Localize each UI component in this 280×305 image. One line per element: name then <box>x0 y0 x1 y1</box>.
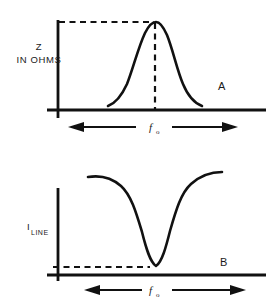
panel-b-x-axis-label: f <box>149 284 154 296</box>
panel-a-y-axis-label-line2: IN OHMS <box>17 54 62 65</box>
panel-a-y-axis-label-line1: Z <box>36 41 42 52</box>
panel-b-right-arrow <box>172 285 246 295</box>
panel-a-x-axis-label: f <box>149 121 154 133</box>
panel-a-x-axis-label-subscript: o <box>156 128 160 136</box>
panel-b-x-axis-label-subscript: o <box>156 291 160 299</box>
resonance-figure: Z IN OHMS f o A I LINE <box>0 0 280 305</box>
panel-b-y-axis-label-line2: LINE <box>31 229 49 236</box>
panel-b-letter: B <box>220 256 227 268</box>
panel-b: I LINE f o B <box>27 172 266 299</box>
panel-a-right-arrow <box>172 122 238 132</box>
panel-a-left-arrow <box>68 122 136 132</box>
panel-a: Z IN OHMS f o A <box>17 20 266 136</box>
panel-b-line-current-curve <box>88 172 222 266</box>
panel-a-letter: A <box>218 80 226 92</box>
panel-b-y-axis-label-line1: I <box>27 221 30 232</box>
panel-b-left-arrow <box>84 285 142 295</box>
